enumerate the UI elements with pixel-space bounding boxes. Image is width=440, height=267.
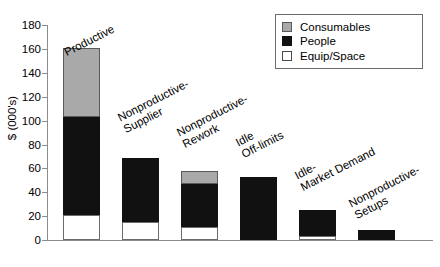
y-tick-180: 180	[0, 20, 41, 30]
y-tick-mark-0	[42, 240, 47, 241]
y-tick-mark-180	[42, 25, 47, 26]
y-tick-label-20: 20	[7, 211, 41, 221]
legend-label-consumables: Consumables	[300, 21, 370, 33]
category-label-idle-off-limits: Idle Off-limits	[234, 117, 286, 160]
bar-segment-people	[240, 177, 277, 240]
y-tick-140: 140	[0, 68, 41, 78]
bar-nonproductive-setups[interactable]	[358, 230, 395, 240]
bar-nonproductive-supplier[interactable]	[122, 158, 159, 240]
consumables-swatch-icon	[282, 22, 292, 32]
legend-item-equip-space[interactable]: Equip/Space	[282, 49, 416, 63]
y-axis-line	[47, 25, 48, 241]
y-tick-mark-140	[42, 73, 47, 74]
bar-segment-people	[181, 184, 218, 227]
y-tick-label-0: 0	[7, 235, 41, 245]
category-label-nonproductive-setups: Nonproductive- Setups	[347, 163, 428, 221]
bar-idle-off-limits[interactable]	[240, 177, 277, 240]
y-tick-label-80: 80	[7, 140, 41, 150]
bar-segment-equip-space	[299, 236, 336, 240]
legend-label-people: People	[300, 35, 336, 47]
bar-segment-people	[299, 210, 336, 236]
stacked-bar-chart: $ (000's) 180 160 140 120 100 80 60 40 2…	[0, 0, 440, 267]
y-tick-mark-80	[42, 145, 47, 146]
bar-nonproductive-rework[interactable]	[181, 171, 218, 240]
y-tick-label-140: 140	[7, 68, 41, 78]
bar-segment-equip-space	[63, 215, 100, 240]
y-tick-mark-120	[42, 97, 47, 98]
y-tick-label-120: 120	[7, 92, 41, 102]
y-tick-160: 160	[0, 44, 41, 54]
bar-segment-people	[63, 117, 100, 215]
y-tick-100: 100	[0, 116, 41, 126]
bar-segment-people	[358, 230, 395, 240]
y-tick-label-180: 180	[7, 20, 41, 30]
legend-item-people[interactable]: People	[282, 34, 416, 48]
legend-item-consumables[interactable]: Consumables	[282, 20, 416, 34]
y-tick-label-100: 100	[7, 116, 41, 126]
equip-space-swatch-icon	[282, 51, 292, 61]
y-tick-mark-160	[42, 49, 47, 50]
y-tick-mark-60	[42, 168, 47, 169]
bar-idle-market-demand[interactable]	[299, 210, 336, 240]
category-label-idle-market-demand: Idle- Market Demand	[293, 134, 377, 193]
legend-label-equip-space: Equip/Space	[300, 50, 365, 62]
y-tick-80: 80	[0, 140, 41, 150]
y-tick-label-40: 40	[7, 187, 41, 197]
bar-segment-equip-space	[122, 222, 159, 240]
bar-segment-consumables	[181, 171, 218, 184]
y-tick-mark-20	[42, 216, 47, 217]
y-tick-mark-40	[42, 192, 47, 193]
people-swatch-icon	[282, 36, 292, 46]
y-tick-label-60: 60	[7, 163, 41, 173]
x-axis-line	[47, 240, 433, 241]
bar-segment-equip-space	[181, 227, 218, 240]
bar-segment-consumables	[63, 48, 100, 117]
y-tick-20: 20	[0, 211, 41, 221]
bar-segment-people	[122, 158, 159, 222]
y-tick-0: 0	[0, 235, 41, 245]
bar-productive[interactable]	[63, 48, 100, 240]
y-tick-60: 60	[0, 163, 41, 173]
y-tick-120: 120	[0, 92, 41, 102]
y-tick-mark-100	[42, 121, 47, 122]
y-tick-label-160: 160	[7, 44, 41, 54]
y-tick-40: 40	[0, 187, 41, 197]
legend: Consumables People Equip/Space	[275, 14, 423, 69]
